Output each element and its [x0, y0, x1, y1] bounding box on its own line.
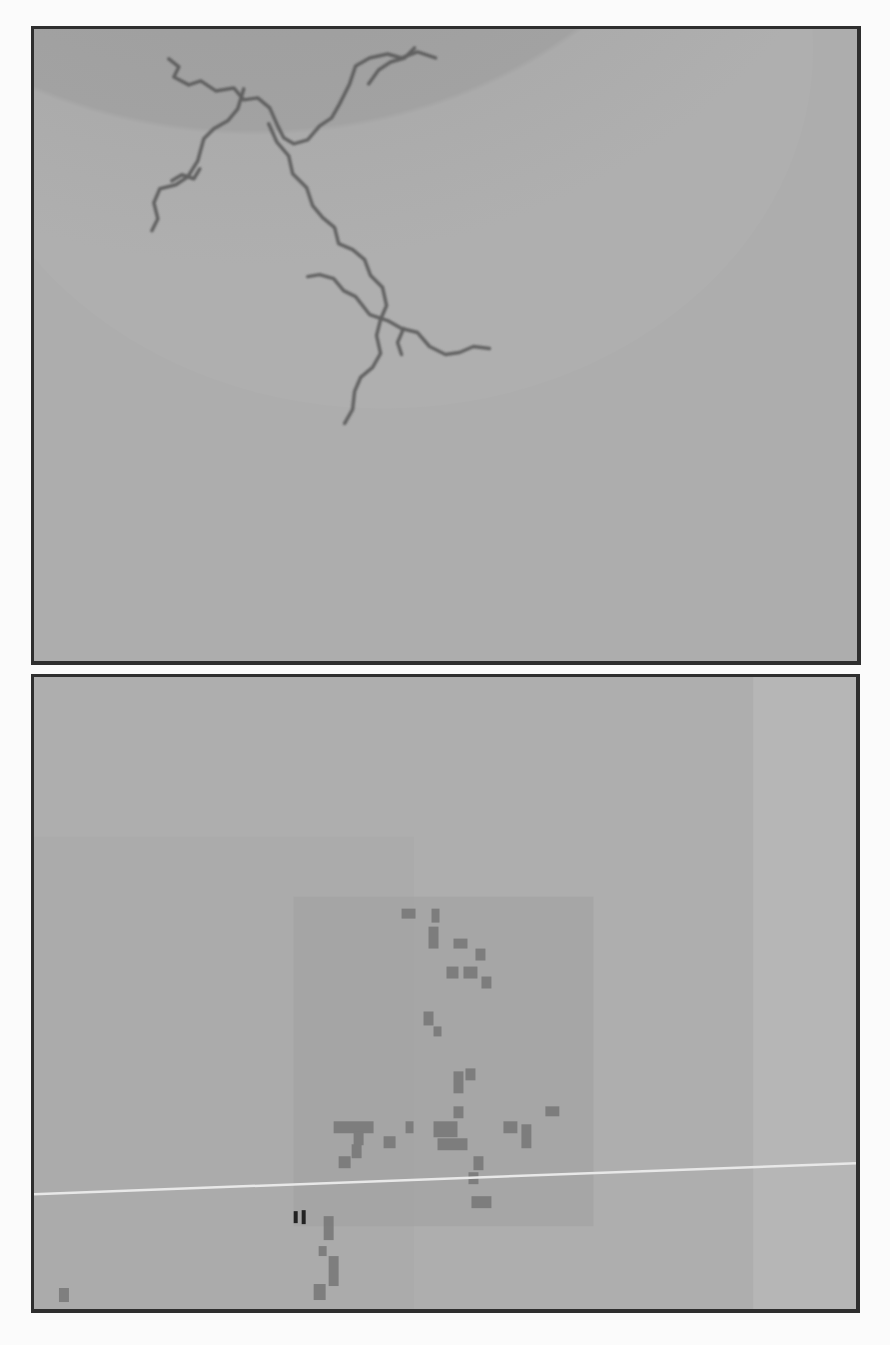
- pixelated-cluster-image: [34, 677, 856, 1309]
- dendrite-image: [34, 29, 857, 661]
- figure-panel-top: [31, 26, 861, 665]
- figure-panel-bottom: [31, 674, 860, 1313]
